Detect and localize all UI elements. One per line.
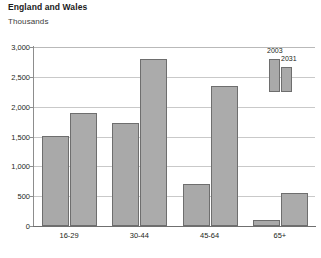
y-axis-tick-label: 500 bbox=[4, 192, 30, 201]
bar-2003-65+ bbox=[253, 220, 280, 226]
bar-group bbox=[104, 47, 174, 226]
bar-group bbox=[34, 47, 104, 226]
bar-2003-30-44 bbox=[112, 123, 139, 226]
bar-2003-45-64 bbox=[183, 184, 210, 226]
legend-label-2031: 2031 bbox=[281, 55, 297, 62]
bar-2031-65+ bbox=[281, 193, 308, 226]
x-axis-tick-label: 30-44 bbox=[104, 231, 174, 240]
x-axis-labels: 16-2930-4445-6465+ bbox=[34, 229, 315, 245]
chart-legend: 2003 2031 bbox=[262, 47, 314, 92]
x-axis-tick-label: 45-64 bbox=[175, 231, 245, 240]
x-axis-line bbox=[33, 226, 316, 227]
y-axis-tick-label: 3,000 bbox=[4, 43, 30, 52]
bar-2031-16-29 bbox=[70, 113, 97, 226]
chart-page: England and Wales Thousands 3,0002,5002,… bbox=[0, 0, 321, 258]
legend-swatch-2031 bbox=[281, 67, 292, 92]
legend-label-2003: 2003 bbox=[267, 47, 283, 54]
y-axis-tick-label: 2,500 bbox=[4, 73, 30, 82]
bar-2031-45-64 bbox=[211, 86, 238, 226]
bar-group bbox=[175, 47, 245, 226]
y-axis-tick-label: 1,500 bbox=[4, 133, 30, 142]
y-axis-tick-label: 2,000 bbox=[4, 103, 30, 112]
bar-2003-16-29 bbox=[42, 136, 69, 226]
x-axis-tick-label: 65+ bbox=[245, 231, 315, 240]
y-axis-tick-label: 1,000 bbox=[4, 162, 30, 171]
x-axis-tick-label: 16-29 bbox=[34, 231, 104, 240]
y-axis-tick-label: 0 bbox=[4, 222, 30, 231]
legend-swatch-2003 bbox=[269, 59, 280, 92]
y-axis-labels: 3,0002,5002,0001,5001,0005000 bbox=[0, 0, 30, 258]
bar-2031-30-44 bbox=[140, 59, 167, 226]
